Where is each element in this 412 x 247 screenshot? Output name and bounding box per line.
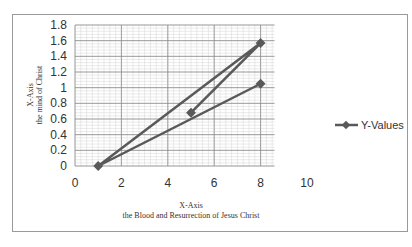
x-tick-label: 8 [257,176,264,190]
grid-lines [75,25,275,166]
y-tick-label: 0.4 [50,128,67,142]
y-tick-label: 1 [60,81,67,95]
x-tick-label: 2 [118,176,125,190]
legend: Y-Values [335,119,404,131]
data-point-marker [256,79,266,89]
x-tick-label: 4 [164,176,171,190]
y-tick-label: 0.6 [50,112,67,126]
y-tick-label: 0.8 [50,96,67,110]
y-tick-label: 1.6 [50,34,67,48]
legend-label: Y-Values [361,119,404,131]
chart-plot: 00.20.40.60.811.21.41.61.80246810 X-Axis… [0,0,412,247]
y-tick-label: 1.2 [50,65,67,79]
x-axis-subtitle: the Blood and Resurrection of Jesus Chri… [123,211,261,220]
y-tick-label: 1.8 [50,18,67,32]
y-tick-label: 0.2 [50,143,67,157]
x-axis-title: X-Axis [179,201,203,210]
legend-diamond-icon [342,121,350,129]
x-tick-label: 10 [300,176,314,190]
y-tick-label: 1.4 [50,49,67,63]
y-tick-label: 0 [60,159,67,173]
y-axis-title: X-Axis [26,83,35,107]
x-tick-label: 6 [211,176,218,190]
x-tick-label: 0 [72,176,79,190]
y-axis-subtitle: the mind of Christ [35,65,44,124]
